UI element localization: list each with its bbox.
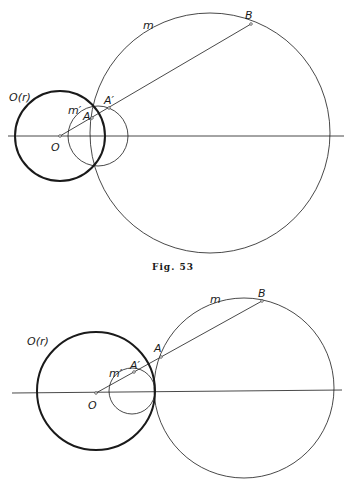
figure-2-label-circle-O: O(r) xyxy=(27,335,49,348)
figure-2-circle-m xyxy=(154,298,334,478)
figure-2-point-A xyxy=(160,356,163,359)
figure-2-label-center-O: O xyxy=(88,399,97,412)
figure-2-label-A-prime: A′ xyxy=(129,359,141,372)
figure-2-point-O xyxy=(95,392,98,395)
figure-2-label-A: A xyxy=(153,342,162,355)
figure-2-point-B xyxy=(261,300,264,303)
figure-1-label-A: A xyxy=(82,110,91,123)
figure-2 xyxy=(12,298,342,478)
figure-2-axis xyxy=(12,390,342,393)
figure-2-label-m-prime: m′ xyxy=(109,367,123,380)
figure-2-labels: O(r) O m m′ A A′ B xyxy=(27,287,266,412)
figure-1-label-m-prime: m′ xyxy=(68,104,82,117)
figure-1-label-center-O: O xyxy=(51,141,60,154)
figure-1-labels: O(r) O m m′ A A′ B xyxy=(9,9,253,154)
figure-1-circle-m xyxy=(90,13,330,253)
figure-1-point-A-prime xyxy=(108,107,111,110)
figure-1-label-circle-O: O(r) xyxy=(9,91,31,104)
figure-1 xyxy=(8,13,344,253)
figure-1-label-A-prime: A′ xyxy=(103,94,115,107)
figure-1-label-B: B xyxy=(245,9,253,22)
figure-2-circle-O-r xyxy=(37,332,155,450)
figure-1-point-B xyxy=(250,23,253,26)
figure-caption: Fig. 53 xyxy=(152,262,194,272)
figure-2-label-m: m xyxy=(210,293,221,306)
figure-1-point-A xyxy=(91,117,94,120)
figure-2-label-B: B xyxy=(258,287,266,300)
geometry-diagram: O(r) O m m′ A A′ B Fig. 53 O(r) O m m′ A… xyxy=(0,0,347,491)
figure-1-point-O xyxy=(59,135,62,138)
figure-1-label-m: m xyxy=(143,19,154,32)
